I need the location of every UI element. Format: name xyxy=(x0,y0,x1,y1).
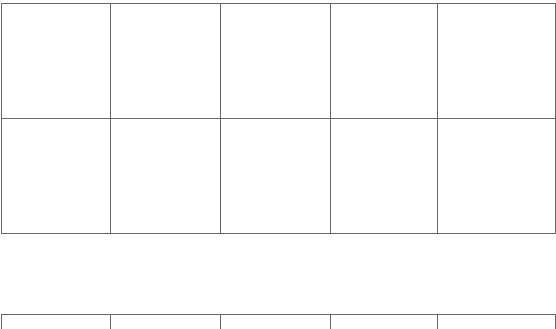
grid-row xyxy=(2,315,556,329)
grid-cell xyxy=(220,4,330,119)
empty-grid-bottom xyxy=(1,314,556,329)
grid-cell xyxy=(437,4,555,119)
grid-cell xyxy=(331,119,438,234)
grid-cell xyxy=(2,119,111,234)
grid-cell xyxy=(111,119,220,234)
grid-row xyxy=(2,4,556,119)
grid-cell xyxy=(331,4,438,119)
grid-cell xyxy=(2,315,111,329)
grid-cell xyxy=(437,315,555,329)
grid-cell xyxy=(111,315,220,329)
grid-cell xyxy=(111,4,220,119)
grid-cell xyxy=(220,315,330,329)
grid-cell xyxy=(437,119,555,234)
grid-cell xyxy=(2,4,111,119)
grid-cell xyxy=(331,315,438,329)
grid-row xyxy=(2,119,556,234)
grid-cell xyxy=(220,119,330,234)
empty-grid-top xyxy=(1,3,556,234)
